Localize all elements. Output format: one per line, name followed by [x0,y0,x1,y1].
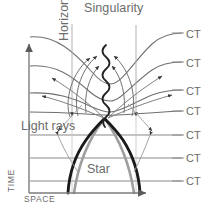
star-label: Star [87,162,110,176]
ct-label: CT [186,57,201,69]
light-rays-pointer [128,104,152,131]
horizon-label: Horizon [57,0,71,41]
light-ray [76,56,97,116]
ct-label: CT [186,105,201,117]
spacetime-diagram: Singularity Horizon Light rays Star TIME… [0,0,206,220]
singularity-label: Singularity [84,1,143,15]
figure-caption [22,211,206,218]
constant-time-slice [30,33,182,84]
star-worldline [105,119,140,193]
ct-label: CT [186,152,201,164]
event-horizon-arc [74,119,134,193]
diagram-canvas [0,0,206,220]
space-axis-label: SPACE [24,194,55,204]
ct-label: CT [186,129,201,141]
light-rays-label: Light rays [21,119,75,133]
light-ray [52,78,104,118]
ct-label: CT [186,85,201,97]
light-ray [112,66,125,113]
ct-connector [172,33,184,181]
time-axis-label: TIME [6,169,16,192]
light-rays-callout-arrow [58,135,78,172]
ct-label: CT [186,28,201,40]
ct-label: CT [186,175,201,187]
